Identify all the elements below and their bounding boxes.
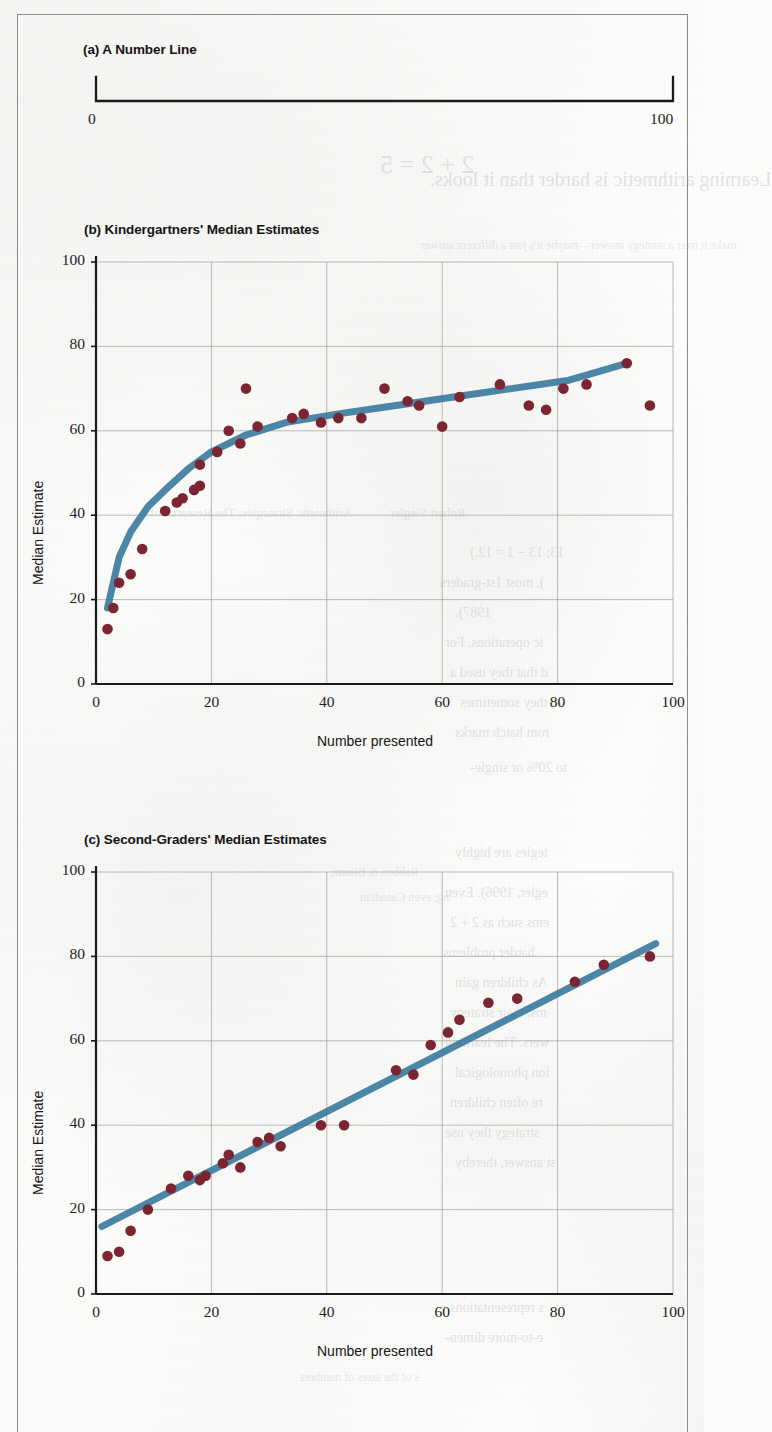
data-points [102,951,655,1261]
y-tick-label: 60 [0,420,85,438]
x-tick-label: 60 [420,693,464,711]
data-point [316,1120,327,1131]
data-point [414,400,425,411]
data-point [524,400,535,411]
y-tick-label: 20 [0,1199,85,1217]
y-tick-label: 40 [0,1114,85,1132]
data-point [195,459,206,470]
numberline-left-label: 0 [88,110,96,128]
data-point [252,1137,263,1148]
data-point [425,1040,436,1051]
data-point [541,404,552,415]
data-point [114,1247,125,1258]
data-point [379,383,390,394]
x-tick-label: 100 [651,1303,695,1321]
x-tick-label: 40 [305,1303,349,1321]
x-tick-label: 20 [189,1303,233,1321]
data-point [252,421,263,432]
data-point [223,426,234,437]
data-point [437,421,448,432]
x-tick-label: 0 [74,1303,118,1321]
data-point [223,1149,234,1160]
data-point [298,409,309,420]
data-point [177,493,188,504]
data-point [166,1183,177,1194]
data-point [316,417,327,428]
panel-c-chart-svg [0,810,704,1370]
y-tick-label: 0 [0,1283,85,1301]
panel-c-x-axis-title: Number presented [317,1343,433,1359]
panel-a-number-line: (a) A Number Line 0 100 [0,0,704,150]
data-point [483,998,494,1009]
panel-b-x-axis-title: Number presented [317,733,433,749]
numberline-bracket [96,77,673,101]
panel-b-y-axis-title: Median Estimate [30,481,46,585]
data-point [454,392,465,403]
data-point [645,951,656,962]
data-point [200,1171,211,1182]
data-point [558,383,569,394]
data-point [114,577,125,588]
data-point [599,960,610,971]
panel-c-y-axis-title: Median Estimate [30,1091,46,1195]
data-point [356,413,367,424]
data-point [235,438,246,449]
data-point [264,1133,275,1144]
data-point [495,379,506,390]
panel-b-chart-svg [0,215,704,775]
data-point [645,400,656,411]
data-point [443,1027,454,1038]
data-point [183,1171,194,1182]
y-tick-label: 80 [0,945,85,963]
x-tick-label: 40 [305,693,349,711]
numberline-right-label: 100 [650,110,673,128]
data-point [102,1251,113,1262]
data-point [125,569,136,580]
y-tick-label: 0 [0,673,85,691]
y-tick-label: 80 [0,335,85,353]
data-point [275,1141,286,1152]
fit-line [108,363,627,608]
data-point [408,1069,419,1080]
y-tick-label: 40 [0,504,85,522]
x-tick-label: 80 [536,1303,580,1321]
data-point [143,1204,154,1215]
data-point [235,1162,246,1173]
data-point [108,603,119,614]
data-point [102,624,113,635]
x-tick-label: 80 [536,693,580,711]
y-tick-label: 100 [0,251,85,269]
y-tick-label: 100 [0,861,85,879]
panel-b-kindergartners: (b) Kindergartners' Median Estimates Med… [0,215,704,775]
x-tick-label: 20 [189,693,233,711]
x-tick-label: 100 [651,693,695,711]
data-point [581,379,592,390]
data-point [333,413,344,424]
data-point [570,976,581,987]
data-point [402,396,413,407]
panel-c-second-graders: (c) Second-Graders' Median Estimates Med… [0,810,704,1370]
panel-a-numberline-svg [0,0,704,150]
data-point [212,447,223,458]
data-point [454,1014,465,1025]
x-tick-label: 60 [420,1303,464,1321]
data-points [102,358,655,634]
y-tick-label: 60 [0,1030,85,1048]
x-tick-label: 0 [74,693,118,711]
data-point [512,993,523,1004]
y-tick-label: 20 [0,589,85,607]
data-point [195,480,206,491]
data-point [125,1225,136,1236]
data-point [241,383,252,394]
data-point [137,544,148,555]
data-point [339,1120,350,1131]
data-point [287,413,298,424]
data-point [391,1065,402,1076]
data-point [160,506,171,517]
data-point [622,358,633,369]
